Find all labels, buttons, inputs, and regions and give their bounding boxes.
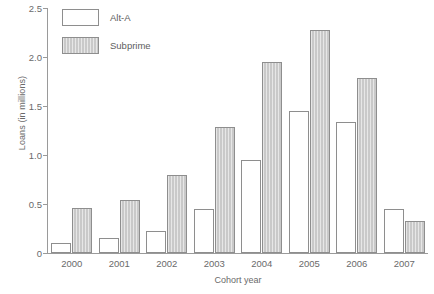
bar-group (384, 8, 425, 253)
legend-swatch (62, 37, 99, 54)
bar-subprime-2007 (405, 221, 425, 253)
bar-subprime-2006 (357, 78, 377, 253)
y-tick-label: 0.5 (2, 199, 42, 210)
y-axis-title: Loans (in millions) (17, 43, 27, 183)
x-axis-line (47, 253, 428, 254)
x-tick-label: 2007 (394, 258, 415, 269)
bar-subprime-2004 (262, 62, 282, 253)
x-tick-label: 2005 (299, 258, 320, 269)
x-tick-label: 2006 (346, 258, 367, 269)
legend-label: Subprime (110, 40, 151, 51)
x-tick-label: 2002 (156, 258, 177, 269)
x-tick-label: 2003 (204, 258, 225, 269)
bar-group (336, 8, 377, 253)
x-tick-label: 2004 (251, 258, 272, 269)
y-tick-label: 2.5 (2, 3, 42, 14)
bar-group (289, 8, 330, 253)
bar-alt-a-2001 (99, 238, 119, 253)
bar-subprime-2000 (72, 208, 92, 253)
x-tick-label: 2001 (109, 258, 130, 269)
x-tick-label: 2000 (61, 258, 82, 269)
legend-swatch (62, 9, 99, 26)
bar-alt-a-2004 (241, 160, 261, 253)
bar-alt-a-2002 (146, 231, 166, 253)
bar-chart: 00.51.01.52.02.5 Loans (in millions) Coh… (0, 0, 434, 294)
bar-alt-a-2005 (289, 111, 309, 253)
bar-alt-a-2000 (51, 243, 71, 253)
plot-area (48, 8, 428, 253)
bar-alt-a-2003 (194, 209, 214, 253)
y-tick-label: 0 (2, 248, 42, 259)
y-tick-mark (43, 253, 48, 254)
x-axis-title: Cohort year (48, 275, 428, 285)
bar-alt-a-2006 (336, 122, 356, 253)
bar-subprime-2001 (120, 200, 140, 253)
bar-group (241, 8, 282, 253)
bar-group (194, 8, 235, 253)
bar-subprime-2003 (215, 127, 235, 253)
legend-label: Alt-A (110, 12, 131, 23)
bar-subprime-2005 (310, 30, 330, 253)
bar-alt-a-2007 (384, 209, 404, 253)
bar-group (146, 8, 187, 253)
bar-subprime-2002 (167, 175, 187, 253)
